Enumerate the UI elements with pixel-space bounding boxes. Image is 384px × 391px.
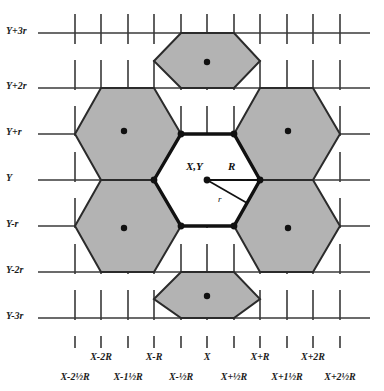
- vertex-left: [151, 177, 158, 184]
- vertex-upper-left: [178, 131, 185, 138]
- dot-hex-upper-left: [121, 128, 127, 134]
- dot-hex-lower-left: [121, 225, 127, 231]
- ylabel-y-plus-3r: Y+3r: [6, 26, 27, 36]
- ylabel-y-minus-r: Y-r: [6, 219, 18, 229]
- xlabel-x-minus-R: X-R: [146, 352, 163, 362]
- center-coordinate-label: X,Y: [186, 160, 203, 172]
- dot-hex-center: [204, 177, 211, 184]
- xlabel-x-plus-R: X+R: [250, 352, 269, 362]
- inradius-label: r: [218, 194, 222, 204]
- xlabel-x-plus-2R: X+2R: [301, 352, 325, 362]
- xlabel-x-plus-1_5R: X+1½R: [271, 372, 303, 382]
- ylabel-y-plus-2r: Y+2r: [6, 81, 27, 91]
- dot-hex-bottom: [204, 293, 210, 299]
- xlabel-x-minus-1_5R: X-1½R: [113, 372, 142, 382]
- ylabel-y: Y: [6, 173, 12, 183]
- ylabel-y-minus-2r: Y-2r: [6, 265, 23, 275]
- ylabel-y-plus-r: Y+r: [6, 127, 22, 137]
- vertex-lower-right: [231, 223, 238, 230]
- xlabel-x-plus-2_5R: X+2½R: [324, 372, 356, 382]
- vertex-lower-left: [178, 223, 185, 230]
- xlabel-x-minus-0_5R: X-½R: [169, 372, 193, 382]
- vertex-upper-right: [231, 131, 238, 138]
- dot-hex-lower-right: [285, 225, 291, 231]
- circumradius-label: R: [228, 160, 235, 172]
- hex-grid-canvas: [0, 0, 384, 391]
- xlabel-x-plus-0_5R: X+½R: [221, 372, 248, 382]
- dot-hex-upper-right: [285, 128, 291, 134]
- hex-grid-figure: Y+3r Y+2r Y+r Y Y-r Y-2r Y-3r X-2R X-R X…: [0, 0, 384, 391]
- dot-hex-top: [204, 59, 210, 65]
- ylabel-y-minus-3r: Y-3r: [6, 311, 23, 321]
- xlabel-x: X: [204, 352, 211, 362]
- xlabel-x-minus-2R: X-2R: [90, 352, 112, 362]
- xlabel-x-minus-2_5R: X-2½R: [60, 372, 89, 382]
